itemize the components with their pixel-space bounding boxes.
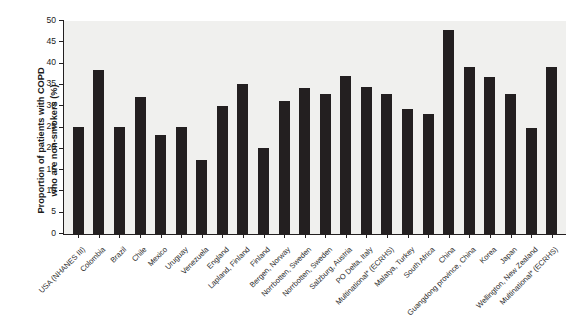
bar bbox=[381, 94, 392, 234]
bar-slot bbox=[480, 21, 501, 234]
bar-slot bbox=[150, 21, 171, 234]
x-tick bbox=[325, 234, 326, 238]
y-tick-label: 25 bbox=[46, 121, 56, 131]
bar bbox=[279, 101, 290, 234]
x-tick bbox=[305, 234, 306, 238]
bar bbox=[526, 128, 537, 235]
x-tick bbox=[222, 234, 223, 238]
x-tick bbox=[243, 234, 244, 238]
bar-series bbox=[64, 21, 566, 234]
x-tick bbox=[428, 234, 429, 238]
x-tick bbox=[202, 234, 203, 238]
y-tick-label: 35 bbox=[46, 78, 56, 88]
x-tick bbox=[161, 234, 162, 238]
bar bbox=[135, 97, 146, 234]
x-tick bbox=[119, 234, 120, 238]
bar bbox=[443, 30, 454, 234]
x-tick bbox=[181, 234, 182, 238]
x-tick bbox=[490, 234, 491, 238]
y-tick-label: 5 bbox=[51, 206, 56, 216]
bar bbox=[402, 109, 413, 234]
bar-slot bbox=[356, 21, 377, 234]
bar-slot bbox=[191, 21, 212, 234]
bar bbox=[155, 135, 166, 234]
bar-slot bbox=[541, 21, 562, 234]
bar bbox=[114, 127, 125, 234]
x-tick bbox=[78, 234, 79, 238]
y-tick-label: 20 bbox=[46, 142, 56, 152]
bar-slot bbox=[109, 21, 130, 234]
bar bbox=[484, 77, 495, 234]
bar-slot bbox=[89, 21, 110, 234]
bar-slot bbox=[233, 21, 254, 234]
bar-slot bbox=[336, 21, 357, 234]
x-tick bbox=[531, 234, 532, 238]
y-tick-label: 45 bbox=[46, 36, 56, 46]
bar-slot bbox=[418, 21, 439, 234]
bar-slot bbox=[171, 21, 192, 234]
bar bbox=[423, 114, 434, 234]
bar-slot bbox=[377, 21, 398, 234]
x-tick bbox=[511, 234, 512, 238]
x-tick bbox=[264, 234, 265, 238]
bar bbox=[176, 127, 187, 234]
bar-slot bbox=[397, 21, 418, 234]
bar-slot bbox=[438, 21, 459, 234]
x-tick bbox=[346, 234, 347, 238]
bar-slot bbox=[521, 21, 542, 234]
y-tick-label: 0 bbox=[51, 228, 56, 238]
y-tick-label: 40 bbox=[46, 57, 56, 67]
bar-slot bbox=[459, 21, 480, 234]
x-tick-label: Brazil bbox=[108, 245, 128, 265]
bar-slot bbox=[500, 21, 521, 234]
bar-slot bbox=[212, 21, 233, 234]
y-tick-label: 15 bbox=[46, 164, 56, 174]
bar bbox=[73, 127, 84, 234]
x-tick bbox=[408, 234, 409, 238]
x-tick-label: Korea bbox=[478, 245, 499, 266]
bar bbox=[299, 88, 310, 234]
bar bbox=[196, 160, 207, 234]
bar bbox=[258, 148, 269, 234]
x-tick bbox=[366, 234, 367, 238]
bar bbox=[340, 76, 351, 234]
bar bbox=[361, 87, 372, 234]
bar-slot bbox=[294, 21, 315, 234]
bar bbox=[93, 70, 104, 234]
bar bbox=[320, 94, 331, 234]
x-tick bbox=[387, 234, 388, 238]
bar-slot bbox=[68, 21, 89, 234]
bar-slot bbox=[315, 21, 336, 234]
bar-slot bbox=[130, 21, 151, 234]
bar bbox=[237, 84, 248, 234]
bar-slot bbox=[253, 21, 274, 234]
x-tick bbox=[284, 234, 285, 238]
bar bbox=[217, 106, 228, 234]
y-tick-label: 30 bbox=[46, 100, 56, 110]
bar bbox=[464, 67, 475, 234]
plot-area: 05101520253035404550 bbox=[63, 21, 566, 235]
y-tick-label: 50 bbox=[46, 15, 56, 25]
x-tick bbox=[140, 234, 141, 238]
x-tick bbox=[552, 234, 553, 238]
bar bbox=[546, 67, 557, 234]
bar bbox=[505, 94, 516, 234]
copd-nonsmokers-bar-chart: Proportion of patients with COPD who are… bbox=[0, 0, 574, 332]
bar-slot bbox=[274, 21, 295, 234]
x-tick bbox=[449, 234, 450, 238]
x-axis-labels: USA (NHANES III)ColombiaBrazilChileMexic… bbox=[63, 239, 566, 331]
x-tick bbox=[99, 234, 100, 238]
x-tick bbox=[469, 234, 470, 238]
y-tick-label: 10 bbox=[46, 185, 56, 195]
